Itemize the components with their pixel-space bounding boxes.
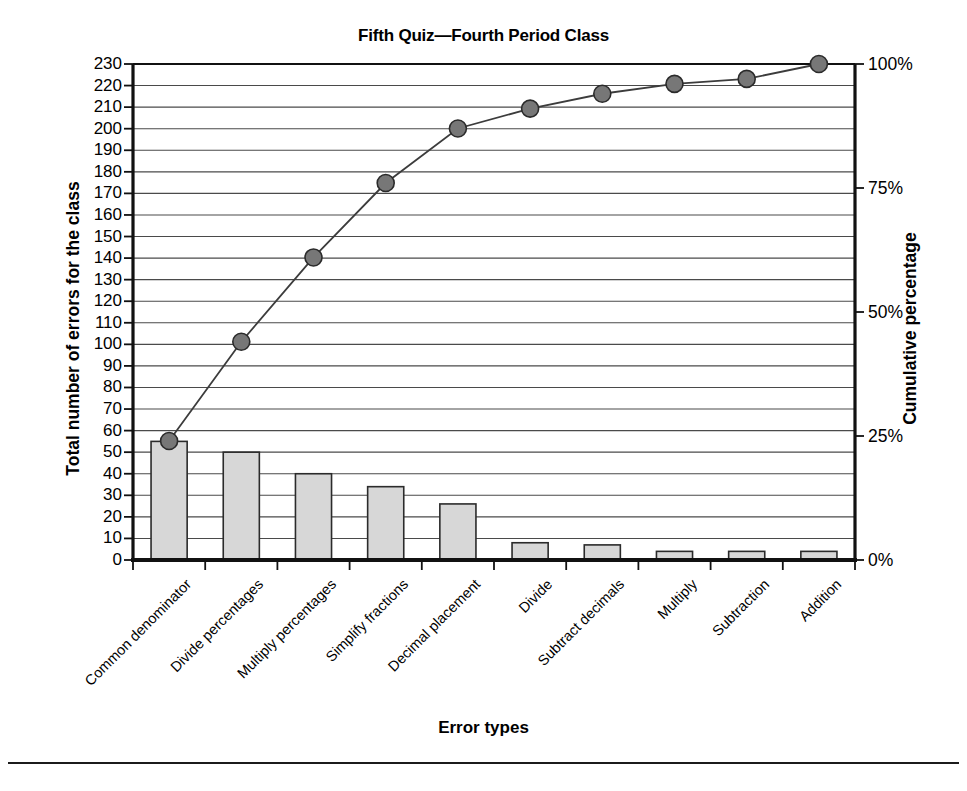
x-axis-tick-label: Multiply <box>654 576 700 622</box>
y-axis-tick-label-left: 130 <box>32 270 122 290</box>
y-axis-tick-label-left: 120 <box>32 291 122 311</box>
bar <box>440 504 476 560</box>
y-axis-tick-label-left: 20 <box>32 507 122 527</box>
cumulative-marker <box>305 249 322 266</box>
cumulative-marker <box>738 70 755 87</box>
y-axis-tick-label-right: 75% <box>868 178 903 199</box>
cumulative-marker <box>161 432 178 449</box>
y-axis-tick-label-left: 220 <box>32 76 122 96</box>
y-axis-tick-label-left: 30 <box>32 485 122 505</box>
y-axis-tick-label-left: 80 <box>32 377 122 397</box>
bar <box>368 487 404 560</box>
y-axis-tick-label-left: 170 <box>32 183 122 203</box>
y-axis-tick-label-left: 180 <box>32 162 122 182</box>
x-axis-tick-label: Subtraction <box>709 576 772 639</box>
cumulative-marker <box>233 333 250 350</box>
bar <box>295 474 331 560</box>
y-axis-tick-label-left: 190 <box>32 140 122 160</box>
y-axis-tick-label-right: 0% <box>868 550 893 571</box>
plot-area: 0102030405060708090100110120130140150160… <box>133 64 855 560</box>
y-axis-tick-label-left: 10 <box>32 528 122 548</box>
y-axis-tick-label-left: 200 <box>32 119 122 139</box>
plot-svg <box>133 64 855 560</box>
y-axis-tick-label-left: 0 <box>32 550 122 570</box>
pareto-chart-figure: Fifth Quiz—Fourth Period Class Total num… <box>0 0 967 791</box>
y-axis-tick-label-left: 100 <box>32 334 122 354</box>
y-axis-tick-label-left: 60 <box>32 421 122 441</box>
y-axis-tick-label-left: 210 <box>32 97 122 117</box>
cumulative-marker <box>594 85 611 102</box>
y-axis-tick-label-left: 160 <box>32 205 122 225</box>
y-axis-tick-label-right: 100% <box>868 54 913 75</box>
cumulative-marker <box>449 120 466 137</box>
bar <box>151 441 187 560</box>
x-axis-tick-label: Addition <box>796 576 844 624</box>
y-axis-tick-label-left: 150 <box>32 227 122 247</box>
bar <box>512 543 548 560</box>
y-axis-tick-label-right: 50% <box>868 302 903 323</box>
y-axis-tick-label-left: 70 <box>32 399 122 419</box>
chart-title: Fifth Quiz—Fourth Period Class <box>0 26 967 46</box>
y-axis-tick-label-left: 230 <box>32 54 122 74</box>
x-axis-tick-label: Divide <box>516 576 556 616</box>
y-axis-tick-label-left: 90 <box>32 356 122 376</box>
y-axis-tick-label-left: 140 <box>32 248 122 268</box>
y-axis-tick-label-left: 40 <box>32 464 122 484</box>
bar <box>584 545 620 560</box>
cumulative-marker <box>666 75 683 92</box>
cumulative-marker <box>522 100 539 117</box>
cumulative-marker <box>377 175 394 192</box>
y-axis-tick-label-left: 110 <box>32 313 122 333</box>
cumulative-line <box>169 64 819 441</box>
bottom-divider-rule <box>8 762 959 764</box>
y-axis-tick-label-left: 50 <box>32 442 122 462</box>
y-axis-tick-label-right: 25% <box>868 426 903 447</box>
cumulative-marker <box>810 56 827 73</box>
bar <box>223 452 259 560</box>
x-axis-title: Error types <box>0 718 967 738</box>
